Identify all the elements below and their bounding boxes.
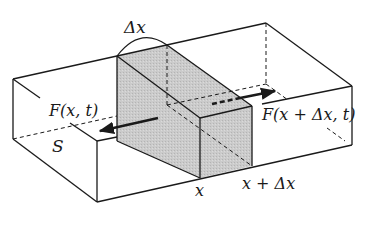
label-force-right: F(x + Δx, t) [261,105,355,124]
bar-slice-diagram: Δx F(x, t) S F(x + Δx, t) x x + Δx [0,0,389,240]
label-x-plus-delta-x: x + Δx [242,174,295,193]
label-delta-x: Δx [123,17,146,37]
label-force-left: F(x, t) [48,101,98,120]
label-x: x [195,181,204,200]
shaded-slice [117,45,252,178]
label-cross-section: S [52,136,64,156]
